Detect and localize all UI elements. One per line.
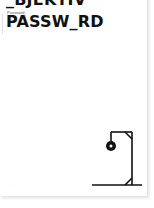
previous-word: _BJEKTIV [6, 0, 86, 9]
gallows-brace-top [125, 132, 132, 139]
hangman-head-highlight [110, 145, 113, 148]
gallows-brace-bottom [125, 178, 132, 185]
current-word: PASSW_RD [6, 13, 104, 31]
panel-divider [2, 14, 3, 34]
footer-hint: · · · · · · [6, 182, 20, 187]
hangman-drawing [88, 130, 142, 190]
